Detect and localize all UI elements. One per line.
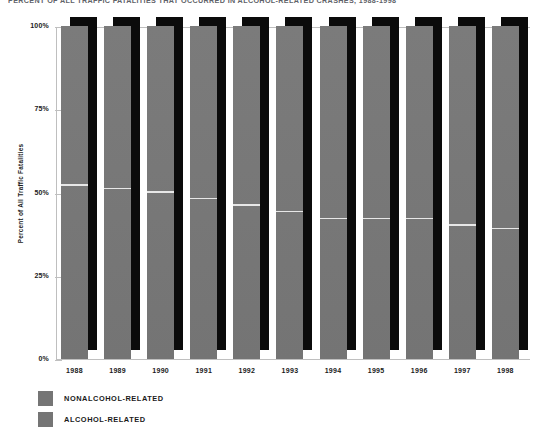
chart-figure: PERCENT OF ALL TRAFFIC FATALITIES THAT O…: [0, 0, 544, 437]
y-axis-tick-label: 50%: [34, 189, 49, 196]
x-axis-tick-label: 1993: [270, 367, 309, 374]
legend-color-swatch: [38, 412, 53, 427]
bar-stack[interactable]: [233, 26, 260, 359]
bar-group[interactable]: [147, 26, 183, 359]
bar-segment-divider: [104, 188, 131, 189]
y-axis-tick-label: 25%: [34, 272, 49, 279]
bar-group[interactable]: [449, 26, 485, 359]
chart-legend: NONALCOHOL-RELATEDALCOHOL-RELATED: [38, 388, 164, 430]
y-axis-tick-label: 0%: [38, 355, 49, 362]
bar-segment-divider: [492, 228, 519, 229]
x-axis-tick-label: 1998: [486, 367, 525, 374]
bar-stack[interactable]: [492, 26, 519, 359]
legend-item[interactable]: ALCOHOL-RELATED: [38, 409, 164, 430]
bar-stack[interactable]: [363, 26, 390, 359]
bar-group[interactable]: [492, 26, 528, 359]
bar-stack[interactable]: [449, 26, 476, 359]
y-axis-title: Percent of All Traffic Fatalities: [17, 114, 24, 274]
legend-item[interactable]: NONALCOHOL-RELATED: [38, 388, 164, 409]
bar-segment-divider: [320, 218, 347, 219]
bar-group[interactable]: [190, 26, 226, 359]
bar-stack[interactable]: [406, 26, 433, 359]
legend-color-swatch: [38, 391, 53, 406]
bar-stack[interactable]: [276, 26, 303, 359]
bar-group[interactable]: [320, 26, 356, 359]
bar-group[interactable]: [61, 26, 97, 359]
x-axis-tick-label: 1991: [184, 367, 223, 374]
bar-group[interactable]: [276, 26, 312, 359]
x-axis-tick-label: 1989: [98, 367, 137, 374]
legend-item-label: NONALCOHOL-RELATED: [64, 394, 164, 403]
bar-group[interactable]: [363, 26, 399, 359]
plot-area: 100%75%50%25%0% 198819891990199119921993…: [56, 27, 530, 360]
bar-group[interactable]: [104, 26, 140, 359]
bar-segment-divider: [190, 198, 217, 199]
legend-item-label: ALCOHOL-RELATED: [64, 415, 146, 424]
bar-segment-divider: [406, 218, 433, 219]
x-axis-tick-label: 1988: [55, 367, 94, 374]
bar-stack[interactable]: [104, 26, 131, 359]
x-axis-tick-label: 1996: [400, 367, 439, 374]
bar-stack[interactable]: [147, 26, 174, 359]
bar-stack[interactable]: [190, 26, 217, 359]
bar-group[interactable]: [406, 26, 442, 359]
bar-stack[interactable]: [320, 26, 347, 359]
x-axis-tick-label: 1992: [227, 367, 266, 374]
bar-segment-divider: [233, 204, 260, 205]
bar-stack[interactable]: [61, 26, 88, 359]
x-axis-tick-label: 1997: [443, 367, 482, 374]
y-axis-tick-label: 100%: [30, 22, 49, 29]
chart-title: PERCENT OF ALL TRAFFIC FATALITIES THAT O…: [8, 0, 538, 5]
bar-group[interactable]: [233, 26, 269, 359]
x-axis-tick-label: 1995: [357, 367, 396, 374]
x-axis-tick-label: 1994: [314, 367, 353, 374]
y-axis-tick-mark: [55, 360, 62, 361]
bar-segment-divider: [147, 191, 174, 192]
y-axis-tick-label: 75%: [34, 105, 49, 112]
bar-segment-divider: [276, 211, 303, 212]
bar-segment-divider: [61, 184, 88, 185]
x-axis-tick-label: 1990: [141, 367, 180, 374]
bar-segment-divider: [363, 218, 390, 219]
x-axis-line: [56, 359, 530, 360]
bar-segment-divider: [449, 224, 476, 225]
